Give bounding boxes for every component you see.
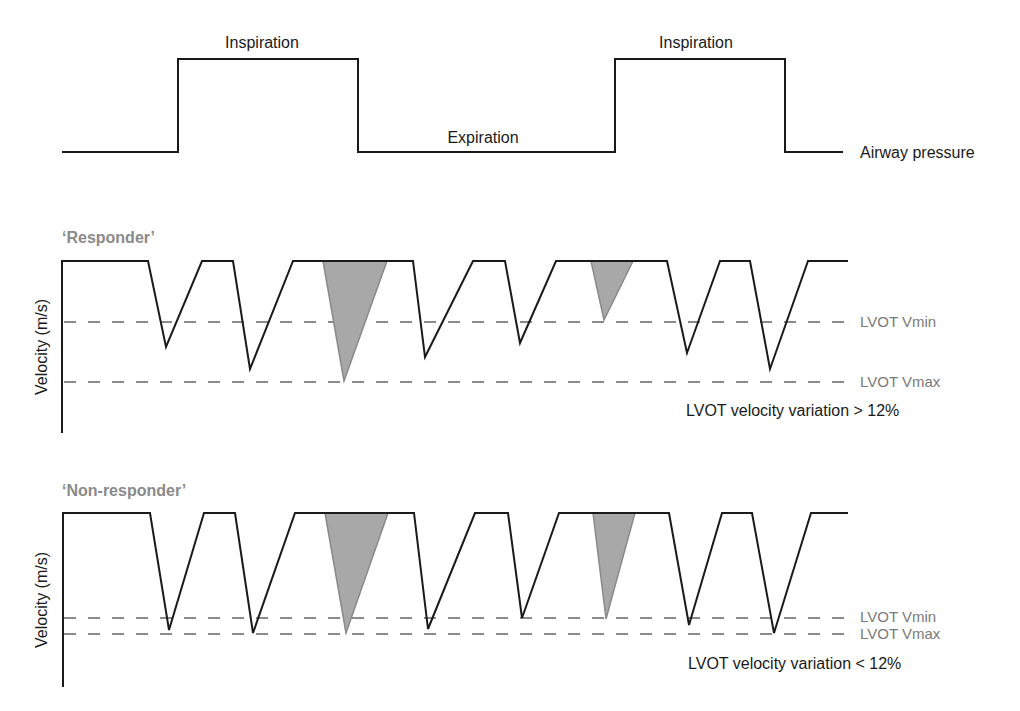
shaded-beat xyxy=(593,513,635,619)
velocity-beats xyxy=(62,513,848,633)
shaded-beat xyxy=(591,261,633,320)
variation-text: LVOT velocity variation < 12% xyxy=(688,655,901,672)
vmax-label: LVOT Vmax xyxy=(860,373,941,390)
y-axis-label: Velocity (m/s) xyxy=(33,299,50,395)
velocity-trace xyxy=(62,261,848,369)
y-axis-label: Velocity (m/s) xyxy=(33,552,50,648)
vmin-label: LVOT Vmin xyxy=(860,313,936,330)
panel-title: ‘Non-responder’ xyxy=(62,482,186,499)
lvot-respiratory-variation-diagram: Inspiration Expiration Inspiration Airwa… xyxy=(0,0,1020,711)
velocity-trace xyxy=(62,513,848,633)
variation-text: LVOT velocity variation > 12% xyxy=(686,402,899,419)
phase-label-expiration: Expiration xyxy=(447,129,518,146)
shaded-beat xyxy=(325,513,388,633)
phase-label-inspiration-2: Inspiration xyxy=(659,34,733,51)
panel-title: ‘Responder’ xyxy=(62,229,155,246)
non-responder-panel: ‘Non-responder’ Velocity (m/s) LVOT Vmin… xyxy=(33,482,941,687)
airway-pressure-panel: Inspiration Expiration Inspiration Airwa… xyxy=(62,34,975,161)
airway-pressure-label: Airway pressure xyxy=(860,144,975,161)
phase-label-inspiration-1: Inspiration xyxy=(225,34,299,51)
vmax-label: LVOT Vmax xyxy=(860,625,941,642)
responder-panel: ‘Responder’ Velocity (m/s) LVOT Vmin LVO… xyxy=(33,229,941,433)
vmin-label: LVOT Vmin xyxy=(860,608,936,625)
